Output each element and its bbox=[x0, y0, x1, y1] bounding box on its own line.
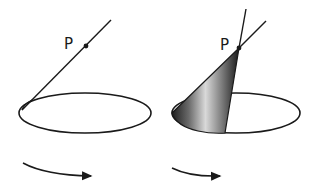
rotation-arrow-left bbox=[23, 163, 91, 176]
point-p-label-left: P bbox=[64, 35, 73, 53]
point-p-left bbox=[84, 44, 89, 49]
rotation-arrow-right bbox=[172, 168, 220, 176]
figure-line-through-p: P bbox=[19, 20, 151, 133]
generating-line bbox=[22, 20, 111, 110]
point-p-label-right: P bbox=[220, 36, 229, 54]
cone-body bbox=[172, 48, 239, 133]
diagram-canvas: P P bbox=[0, 0, 319, 194]
base-circle-left bbox=[19, 93, 151, 133]
point-p-apex bbox=[237, 46, 242, 51]
figure-cone-surface: P bbox=[172, 9, 300, 133]
